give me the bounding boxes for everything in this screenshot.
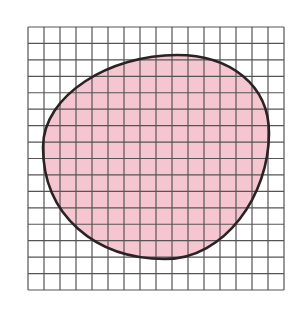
grid-figure — [0, 0, 305, 319]
